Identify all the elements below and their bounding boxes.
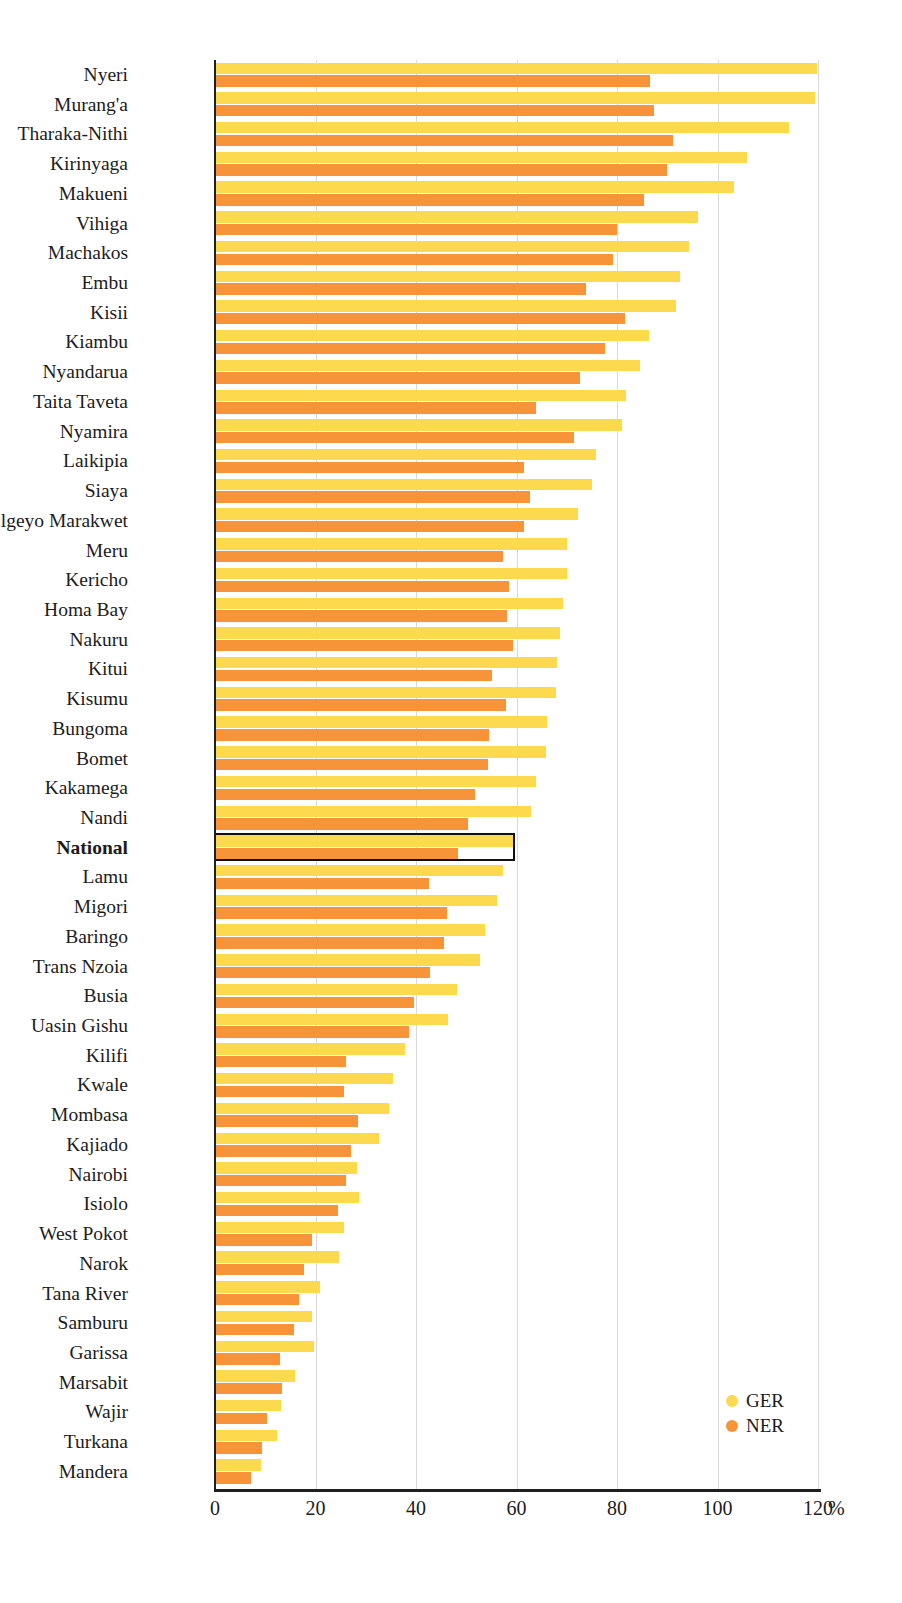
bar-ner[interactable] — [215, 1026, 409, 1037]
bar-row[interactable]: Makueni — [215, 179, 818, 209]
bar-row[interactable]: Tharaka-Nithi — [215, 119, 818, 149]
bar-row[interactable]: Kilifi — [215, 1041, 818, 1071]
bar-ner[interactable] — [215, 521, 524, 532]
bar-ger[interactable] — [215, 1014, 448, 1025]
bar-row[interactable]: Tana River — [215, 1279, 818, 1309]
bar-ner[interactable] — [215, 1264, 304, 1275]
bar-row[interactable]: Bungoma — [215, 714, 818, 744]
bar-ner[interactable] — [215, 224, 617, 235]
bar-row[interactable]: Uasin Gishu — [215, 1011, 818, 1041]
bar-row[interactable]: Taita Taveta — [215, 387, 818, 417]
bar-ner[interactable] — [215, 551, 503, 562]
bar-ner[interactable] — [215, 967, 430, 978]
bar-ner[interactable] — [215, 640, 513, 651]
bar-ger[interactable] — [215, 152, 747, 163]
bar-ner[interactable] — [215, 937, 444, 948]
bar-ger[interactable] — [215, 1459, 261, 1470]
bar-ner[interactable] — [215, 907, 447, 918]
bar-ger[interactable] — [215, 300, 676, 311]
bar-ner[interactable] — [215, 135, 673, 146]
bar-row[interactable]: Samburu — [215, 1308, 818, 1338]
bar-ner[interactable] — [215, 1234, 312, 1245]
bar-ner[interactable] — [215, 699, 506, 710]
bar-row[interactable]: Kericho — [215, 565, 818, 595]
bar-row[interactable]: West Pokot — [215, 1219, 818, 1249]
bar-ner[interactable] — [215, 194, 644, 205]
bar-ger[interactable] — [215, 924, 485, 935]
bar-ger[interactable] — [215, 330, 649, 341]
bar-row[interactable]: Lamu — [215, 862, 818, 892]
bar-ger[interactable] — [215, 1251, 339, 1262]
bar-row[interactable]: Nyamira — [215, 417, 818, 447]
bar-ger[interactable] — [215, 479, 592, 490]
bar-row[interactable]: Murang'a — [215, 90, 818, 120]
bar-ger[interactable] — [215, 63, 817, 74]
bar-ger[interactable] — [215, 1341, 314, 1352]
bar-ger[interactable] — [215, 1192, 359, 1203]
bar-ger[interactable] — [215, 1222, 344, 1233]
bar-ner[interactable] — [215, 402, 536, 413]
bar-row[interactable]: Kajiado — [215, 1130, 818, 1160]
bar-ner[interactable] — [215, 729, 489, 740]
bar-ger[interactable] — [215, 538, 567, 549]
bar-ner[interactable] — [215, 1175, 346, 1186]
bar-ger[interactable] — [215, 211, 698, 222]
bar-ner[interactable] — [215, 432, 574, 443]
bar-ger[interactable] — [215, 419, 622, 430]
bar-row[interactable]: Nakuru — [215, 625, 818, 655]
bar-ger[interactable] — [215, 271, 680, 282]
bar-row[interactable]: Bomet — [215, 744, 818, 774]
bar-ger[interactable] — [215, 1430, 277, 1441]
bar-row[interactable]: Kisii — [215, 298, 818, 328]
bar-row[interactable]: Nandi — [215, 803, 818, 833]
bar-ner[interactable] — [215, 1383, 282, 1394]
bar-row[interactable]: Baringo — [215, 922, 818, 952]
bar-ner[interactable] — [215, 1294, 299, 1305]
bar-ner[interactable] — [215, 1145, 351, 1156]
bar-ner[interactable] — [215, 878, 429, 889]
bar-ner[interactable] — [215, 789, 475, 800]
bar-ner[interactable] — [215, 1324, 294, 1335]
bar-row[interactable]: Kiambu — [215, 327, 818, 357]
bar-ner[interactable] — [215, 372, 580, 383]
bar-ger[interactable] — [215, 835, 513, 846]
bar-row[interactable]: Laikipia — [215, 446, 818, 476]
bar-row[interactable]: Mandera — [215, 1457, 818, 1487]
bar-ger[interactable] — [215, 716, 547, 727]
bar-ger[interactable] — [215, 241, 689, 252]
bar-ger[interactable] — [215, 865, 503, 876]
bar-ner[interactable] — [215, 1413, 267, 1424]
bar-row[interactable]: Kitui — [215, 654, 818, 684]
bar-row[interactable]: Nairobi — [215, 1160, 818, 1190]
bar-ger[interactable] — [215, 746, 546, 757]
bar-row[interactable]: Nyeri — [215, 60, 818, 90]
bar-row[interactable]: Machakos — [215, 238, 818, 268]
bar-ger[interactable] — [215, 1370, 295, 1381]
bar-ner[interactable] — [215, 759, 488, 770]
bar-row[interactable]: Migori — [215, 892, 818, 922]
bar-ger[interactable] — [215, 598, 563, 609]
bar-row[interactable]: Narok — [215, 1249, 818, 1279]
bar-ger[interactable] — [215, 181, 734, 192]
bar-ner[interactable] — [215, 1056, 346, 1067]
bar-ger[interactable] — [215, 449, 596, 460]
bar-ner[interactable] — [215, 313, 625, 324]
bar-ner[interactable] — [215, 1353, 280, 1364]
bar-ner[interactable] — [215, 997, 414, 1008]
bar-ger[interactable] — [215, 1311, 312, 1322]
bar-row[interactable]: Isiolo — [215, 1189, 818, 1219]
bar-ner[interactable] — [215, 254, 613, 265]
bar-row[interactable]: Mombasa — [215, 1100, 818, 1130]
bar-ger[interactable] — [215, 92, 815, 103]
bar-ger[interactable] — [215, 806, 531, 817]
bar-ger[interactable] — [215, 1281, 320, 1292]
bar-row[interactable]: National — [215, 833, 818, 863]
bar-ner[interactable] — [215, 1205, 338, 1216]
bar-ner[interactable] — [215, 462, 524, 473]
bar-ger[interactable] — [215, 984, 457, 995]
bar-ger[interactable] — [215, 1043, 405, 1054]
bar-row[interactable]: Siaya — [215, 476, 818, 506]
bar-ner[interactable] — [215, 283, 586, 294]
bar-ner[interactable] — [215, 343, 605, 354]
bar-ner[interactable] — [215, 581, 509, 592]
